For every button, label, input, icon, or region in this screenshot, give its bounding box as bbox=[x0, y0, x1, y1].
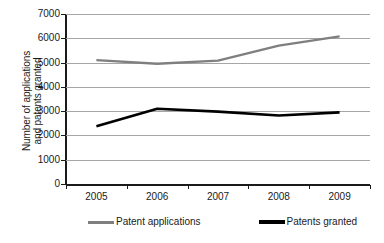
legend-item-patent-applications: Patent applications bbox=[88, 216, 201, 228]
x-axis-tick-label: 2009 bbox=[318, 191, 362, 203]
legend-swatch-icon-granted bbox=[259, 220, 285, 223]
series-lines bbox=[66, 14, 370, 184]
y-axis-tick-label: 0 bbox=[28, 179, 60, 189]
x-axis-tick-label: 2008 bbox=[257, 191, 301, 203]
x-axis-tick-marks bbox=[66, 185, 370, 190]
x-axis-tick bbox=[309, 185, 310, 189]
series-line bbox=[96, 109, 339, 126]
patent-line-chart: Number of applications and patents grant… bbox=[0, 0, 384, 243]
y-axis-tick-label: 2000 bbox=[28, 130, 60, 140]
legend-label-patent-applications: Patent applications bbox=[116, 216, 201, 228]
y-axis-tick-labels: 70006000500040003000200010000 bbox=[28, 14, 60, 184]
x-axis-tick-label: 2006 bbox=[135, 191, 179, 203]
y-axis-tick-label: 6000 bbox=[28, 33, 60, 43]
x-axis-tick bbox=[248, 185, 249, 189]
y-axis-tick-label: 7000 bbox=[28, 9, 60, 19]
y-axis-tick-label: 4000 bbox=[28, 82, 60, 92]
legend-item-patents-granted: Patents granted bbox=[259, 216, 358, 228]
x-axis-tick-label: 2005 bbox=[74, 191, 118, 203]
x-axis-tick bbox=[188, 185, 189, 189]
x-axis-tick bbox=[66, 185, 67, 189]
series-line bbox=[96, 36, 339, 63]
x-axis-tick-labels: 20052006200720082009 bbox=[66, 191, 370, 205]
chart-legend: Patent applications Patents granted bbox=[66, 214, 366, 230]
plot-area bbox=[66, 14, 370, 184]
legend-swatch-icon-applications bbox=[88, 221, 114, 224]
x-axis-tick bbox=[127, 185, 128, 189]
x-axis-tick bbox=[370, 185, 371, 189]
legend-label-patents-granted: Patents granted bbox=[287, 216, 358, 228]
y-axis-tick-label: 1000 bbox=[28, 155, 60, 165]
x-axis-tick-label: 2007 bbox=[196, 191, 240, 203]
y-axis-tick-label: 3000 bbox=[28, 106, 60, 116]
y-axis-tick-label: 5000 bbox=[28, 58, 60, 68]
